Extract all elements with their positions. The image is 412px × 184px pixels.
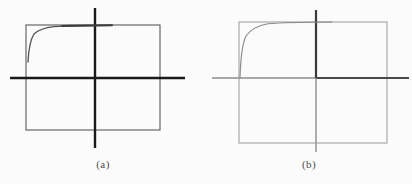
reference-rectangle-b [239, 22, 387, 143]
panel-a-plot [0, 0, 206, 184]
saturating-curve-b [240, 22, 332, 78]
panel-b-caption: (b) [206, 158, 412, 170]
saturating-curve-a-plateau [62, 25, 112, 26]
panel-a-caption: (a) [0, 158, 206, 170]
panel-b-plot [206, 0, 412, 184]
panel-a: (a) [0, 0, 206, 184]
panel-b: (b) [206, 0, 412, 184]
saturating-curve-a [28, 25, 112, 62]
figure-container: (a) (b) [0, 0, 412, 184]
